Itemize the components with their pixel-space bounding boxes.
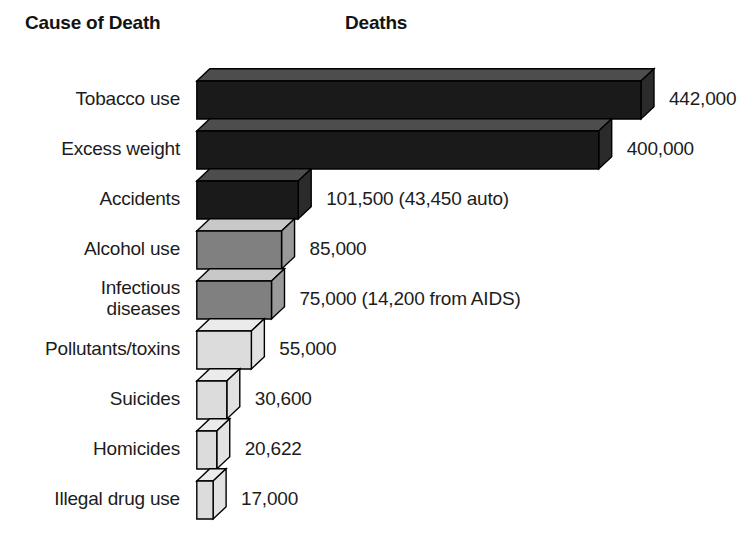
bar-category-label: Alcohol use <box>0 238 180 259</box>
bar-category-label: Accidents <box>0 188 180 209</box>
bar-value-label: 442,000 <box>669 88 736 109</box>
bar-value-label: 30,600 <box>255 388 312 409</box>
bar-category-label: Suicides <box>0 388 180 409</box>
bar-chart-plot-area: Tobacco use442,000Excess weight400,000Ac… <box>0 0 746 537</box>
bar-3d <box>196 218 297 271</box>
bar-category-label: Infectious diseases <box>0 277 180 319</box>
bar-3d <box>196 418 232 471</box>
bar-value-label: 17,000 <box>241 488 298 509</box>
bar-3d <box>196 368 242 421</box>
bar-category-label: Illegal drug use <box>0 488 180 509</box>
bar-category-label: Homicides <box>0 438 180 459</box>
bar-value-label: 101,500 (43,450 auto) <box>326 188 509 209</box>
bar-value-label: 20,622 <box>245 438 302 459</box>
bar-value-label: 85,000 <box>310 238 367 259</box>
bar-category-label: Excess weight <box>0 138 180 159</box>
bar-category-label: Tobacco use <box>0 88 180 109</box>
bar-value-label: 400,000 <box>627 138 694 159</box>
bar-3d <box>196 168 313 221</box>
bar-3d <box>196 68 656 121</box>
bar-category-label: Pollutants/toxins <box>0 338 180 359</box>
bar-value-label: 75,000 (14,200 from AIDS) <box>300 288 521 309</box>
bar-3d <box>196 268 287 321</box>
chart-root: Cause of Death Deaths Tobacco use442,000… <box>0 0 746 537</box>
bar-3d <box>196 118 614 171</box>
bar-3d <box>196 318 266 371</box>
bar-value-label: 55,000 <box>279 338 336 359</box>
bar-3d <box>196 468 228 521</box>
